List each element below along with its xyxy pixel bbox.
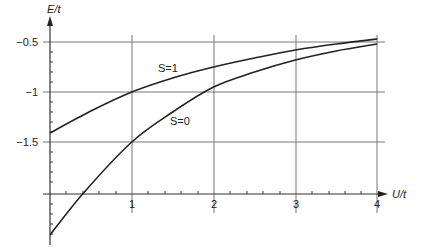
y-tick-label: −0.5 bbox=[16, 36, 38, 48]
chart: −0.5 −1 −1.5 E/t 1 2 3 4 U/t S=1 S=0 bbox=[0, 0, 422, 251]
x-axis: 1 2 3 4 U/t bbox=[43, 188, 407, 210]
x-axis-title: U/t bbox=[392, 188, 407, 200]
x-axis-arrow-icon bbox=[378, 191, 388, 197]
x-tick-label: 2 bbox=[211, 198, 217, 210]
x-tick-label: 4 bbox=[374, 198, 380, 210]
y-axis-arrow-icon bbox=[47, 16, 53, 26]
y-tick-label: −1 bbox=[25, 86, 38, 98]
y-axis-title: E/t bbox=[47, 3, 61, 15]
curve-label-s0: S=0 bbox=[170, 115, 190, 127]
curve-label-s1: S=1 bbox=[158, 62, 178, 74]
y-tick-label: −1.5 bbox=[16, 136, 38, 148]
x-tick-label: 3 bbox=[293, 198, 299, 210]
y-axis: −0.5 −1 −1.5 E/t bbox=[16, 3, 61, 245]
x-tick-label: 1 bbox=[129, 198, 135, 210]
